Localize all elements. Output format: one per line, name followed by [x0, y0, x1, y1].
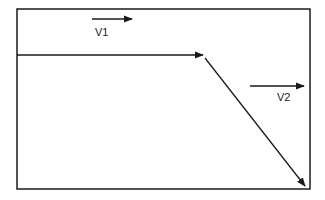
frame-border	[17, 9, 310, 189]
v1-label: V1	[95, 26, 108, 38]
v2-label: V2	[277, 91, 290, 103]
diagonal-flow-arrow	[205, 58, 305, 186]
flow-diagram: V1 V2	[0, 0, 325, 200]
